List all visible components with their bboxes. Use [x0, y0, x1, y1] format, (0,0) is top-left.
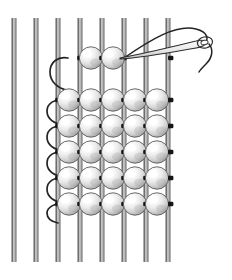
bead-row — [55, 141, 171, 163]
warp-thread-8 — [165, 18, 171, 262]
warp-thread-1 — [11, 18, 17, 262]
needle-shaft — [120, 40, 205, 59]
bead-row — [55, 89, 171, 111]
bead-row — [55, 167, 171, 189]
bead-row — [55, 193, 171, 215]
diagram-canvas: Instructional bead loom illustration: ei… — [0, 0, 232, 280]
warp-thread-3 — [55, 18, 61, 262]
bead-loom-illustration — [0, 0, 232, 280]
warp-thread-2 — [33, 18, 39, 262]
bead-row — [55, 115, 171, 137]
